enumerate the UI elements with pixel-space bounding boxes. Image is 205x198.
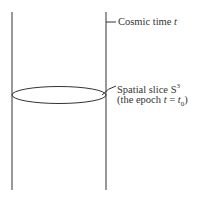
epoch-text: (the epoch: [117, 94, 164, 105]
epoch-label: (the epoch t = t0): [117, 94, 188, 110]
slice-text: Spatial slice S: [117, 84, 177, 95]
epoch-equals: =: [167, 94, 178, 105]
cosmic-time-text: Cosmic time: [118, 16, 174, 27]
epoch-close-paren: ): [184, 94, 188, 105]
slice-label-leader: [102, 86, 116, 95]
slice-superscript: 3: [177, 82, 181, 90]
cosmic-time-label: Cosmic time t: [118, 16, 177, 28]
time-variable: t: [174, 16, 177, 27]
spatial-slice-ellipse: [12, 87, 106, 104]
